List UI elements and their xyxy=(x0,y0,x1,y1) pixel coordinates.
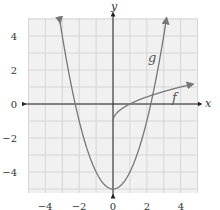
x-tick-label: 0 xyxy=(110,201,116,210)
y-tick-label: −2 xyxy=(2,133,17,144)
y-axis-label: y xyxy=(110,0,118,13)
x-tick-label: −4 xyxy=(38,201,53,210)
y-tick-label: −4 xyxy=(2,167,17,178)
x-axis-label: x xyxy=(205,97,212,110)
function-graph: x y g f −4 −2 0 2 4 4 2 0 −2 −4 xyxy=(0,0,220,210)
y-tick-label: 0 xyxy=(11,99,17,110)
x-tick-label: −2 xyxy=(72,201,87,210)
x-tick-label: 2 xyxy=(144,201,150,210)
x-tick-label: 4 xyxy=(178,201,184,210)
curve-label-g: g xyxy=(148,50,156,65)
y-tick-label: 4 xyxy=(11,31,17,42)
y-tick-label: 2 xyxy=(11,65,17,76)
